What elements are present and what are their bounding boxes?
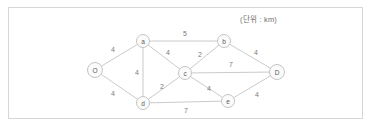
edge-c-D bbox=[192, 72, 270, 73]
node-b: b bbox=[218, 35, 231, 48]
edge-weight-O-d: 4 bbox=[111, 90, 115, 97]
node-label-d: d bbox=[141, 100, 145, 107]
edge-weight-c-b: 2 bbox=[198, 51, 202, 58]
node-c: c bbox=[179, 67, 192, 80]
node-label-a: a bbox=[141, 38, 145, 45]
edge-weight-b-D: 4 bbox=[254, 49, 258, 56]
edge-d-e bbox=[150, 101, 222, 103]
edge-weight-c-e: 4 bbox=[207, 85, 211, 92]
node-O: O bbox=[88, 63, 103, 78]
edge-O-a bbox=[101, 44, 137, 66]
node-D: D bbox=[270, 65, 285, 80]
edge-O-d bbox=[101, 74, 137, 99]
node-label-D: D bbox=[275, 69, 280, 76]
node-d: d bbox=[137, 97, 150, 110]
edge-a-c bbox=[148, 45, 180, 69]
edge-weight-d-e: 7 bbox=[184, 107, 188, 114]
edge-weight-c-D: 7 bbox=[229, 61, 233, 68]
node-label-O: O bbox=[92, 67, 97, 74]
node-label-b: b bbox=[222, 38, 226, 45]
edge-weight-a-b: 5 bbox=[183, 30, 187, 37]
edge-weight-e-D: 4 bbox=[255, 91, 259, 98]
node-label-e: e bbox=[226, 98, 230, 105]
edge-c-b bbox=[190, 45, 219, 69]
edge-c-d bbox=[148, 77, 179, 99]
node-a: a bbox=[137, 35, 150, 48]
edge-weight-O-a: 4 bbox=[111, 46, 115, 53]
node-e: e bbox=[222, 95, 235, 108]
edge-weight-a-c: 4 bbox=[166, 49, 170, 56]
edge-weight-a-d: 4 bbox=[135, 69, 139, 76]
edge-b-D bbox=[230, 44, 271, 68]
graph-canvas: 444542247447 OabcdeD bbox=[0, 0, 375, 134]
network-diagram-figure: (단위 : km) 444542247447 OabcdeD bbox=[0, 0, 375, 134]
edge-weight-c-d: 2 bbox=[160, 83, 164, 90]
edge-e-D bbox=[234, 76, 271, 98]
